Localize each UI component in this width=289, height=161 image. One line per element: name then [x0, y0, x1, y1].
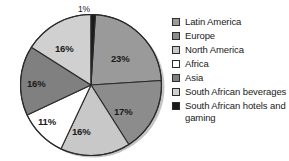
slice-label-sa-hotels: 1% — [78, 4, 90, 14]
pie-chart-figure: 1% 23% 17% 16% 11% 16% 16% Latin America… — [0, 0, 289, 161]
legend-swatch — [172, 18, 180, 26]
slice-label-north-america: 16% — [72, 126, 90, 137]
slice-label-africa: 11% — [38, 116, 56, 127]
leader-line-sa-hotels — [90, 15, 91, 26]
legend-item: Africa — [172, 58, 289, 71]
legend-swatch — [172, 46, 180, 54]
slice-label-latin-america: 23% — [111, 53, 129, 64]
legend-swatch — [172, 60, 180, 68]
legend-item: South African hotels and gaming — [172, 100, 289, 123]
legend-item: Europe — [172, 30, 289, 43]
legend-swatch — [172, 74, 180, 82]
legend-item-label: South African hotels and gaming — [185, 100, 289, 123]
legend-item-label: Europe — [185, 30, 215, 42]
chart-legend: Latin AmericaEuropeNorth AmericaAfricaAs… — [172, 16, 289, 124]
legend-item: Latin America — [172, 16, 289, 29]
legend-item: South African beverages — [172, 86, 289, 99]
legend-swatch — [172, 32, 180, 40]
pie-chart-plot: 1% 23% 17% 16% 11% 16% 16% — [16, 13, 168, 159]
pie-slice — [91, 15, 161, 85]
legend-item-label: Latin America — [185, 16, 241, 28]
legend-item: Asia — [172, 72, 289, 85]
slice-label-sa-beverages: 16% — [55, 43, 73, 54]
legend-item-label: South African beverages — [185, 86, 286, 98]
legend-swatch — [172, 88, 180, 96]
legend-swatch — [172, 102, 180, 110]
legend-item: North America — [172, 44, 289, 57]
legend-item-label: Africa — [185, 58, 209, 70]
legend-item-label: Asia — [185, 72, 203, 84]
slice-label-asia: 16% — [27, 78, 45, 89]
slice-label-europe: 17% — [114, 106, 132, 117]
legend-item-label: North America — [185, 44, 244, 56]
